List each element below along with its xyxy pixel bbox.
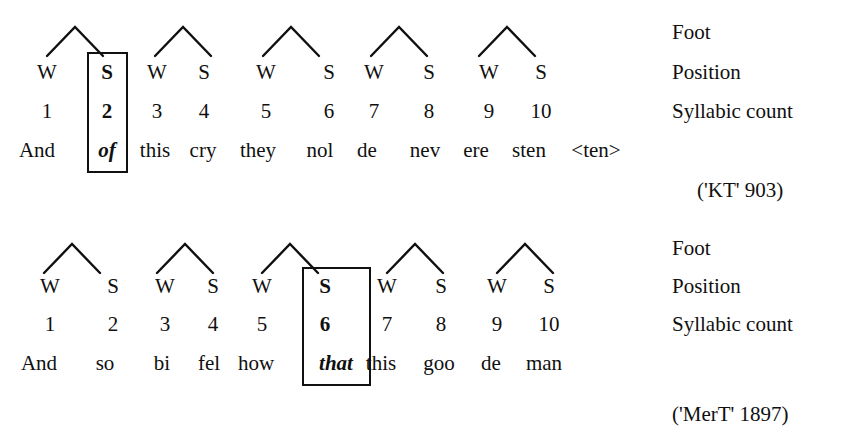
position-cell-6: S bbox=[296, 276, 354, 297]
word-cell-1: And bbox=[8, 140, 66, 161]
foot-caret-1 bbox=[14, 235, 130, 275]
count-cell-2: 2 bbox=[84, 314, 142, 335]
word-cell-4: cry bbox=[174, 140, 232, 161]
caret-icon bbox=[449, 18, 565, 58]
foot-caret-3 bbox=[233, 18, 349, 58]
caret-icon bbox=[14, 235, 130, 275]
word-cell-1: And bbox=[10, 353, 68, 374]
caret-icon bbox=[125, 18, 241, 58]
foot-caret-2 bbox=[127, 235, 243, 275]
legend-label-foot: Foot bbox=[672, 22, 711, 43]
position-cell-7: W bbox=[358, 276, 416, 297]
caret-icon bbox=[341, 18, 457, 58]
foot-caret-5 bbox=[467, 235, 583, 275]
legend-label-position: Position bbox=[672, 62, 741, 83]
position-cell-5: W bbox=[237, 62, 295, 83]
position-cell-10: S bbox=[520, 276, 578, 297]
position-cell-7: W bbox=[345, 62, 403, 83]
count-cell-7: 7 bbox=[345, 101, 403, 122]
legend-label-syllabic-count: Syllabic count bbox=[672, 314, 793, 335]
count-cell-8: 8 bbox=[400, 101, 458, 122]
word-cell-extra: <ten> bbox=[556, 140, 636, 161]
count-cell-5: 5 bbox=[233, 314, 291, 335]
word-cell-5: they bbox=[229, 140, 287, 161]
count-cell-9: 9 bbox=[460, 101, 518, 122]
count-cell-5: 5 bbox=[237, 101, 295, 122]
word-cell-10: sten bbox=[500, 140, 558, 161]
scansion-diagram-1: W S W S W S W S W S 1 2 3 4 5 6 7 8 9 10… bbox=[0, 0, 859, 224]
position-cell-10: S bbox=[512, 62, 570, 83]
count-cell-10: 10 bbox=[512, 101, 570, 122]
word-cell-7: this bbox=[352, 353, 410, 374]
word-cell-8: goo bbox=[410, 353, 468, 374]
count-cell-8: 8 bbox=[412, 314, 470, 335]
legend-label-foot: Foot bbox=[672, 238, 711, 259]
position-cell-8: S bbox=[400, 62, 458, 83]
citation-2: ('MerT' 1897) bbox=[672, 404, 789, 425]
caret-icon bbox=[233, 18, 349, 58]
citation-1: ('KT' 903) bbox=[697, 180, 783, 201]
position-cell-8: S bbox=[412, 276, 470, 297]
position-cell-1: W bbox=[18, 62, 76, 83]
position-cell-1: W bbox=[21, 276, 79, 297]
scansion-diagram-2: W S W S W S W S W S 1 2 3 4 5 6 7 8 9 10… bbox=[0, 224, 859, 448]
position-cell-5: W bbox=[233, 276, 291, 297]
count-cell-4: 4 bbox=[175, 101, 233, 122]
word-cell-9: ere bbox=[447, 140, 505, 161]
word-cell-5: how bbox=[227, 353, 285, 374]
count-cell-1: 1 bbox=[21, 314, 79, 335]
word-cell-9: de bbox=[462, 353, 520, 374]
word-cell-10: man bbox=[515, 353, 573, 374]
caret-icon bbox=[357, 235, 473, 275]
legend-label-position: Position bbox=[672, 276, 741, 297]
count-cell-9: 9 bbox=[468, 314, 526, 335]
count-cell-6: 6 bbox=[296, 314, 354, 335]
caret-icon bbox=[127, 235, 243, 275]
position-cell-9: W bbox=[468, 276, 526, 297]
caret-icon bbox=[467, 235, 583, 275]
position-cell-9: W bbox=[460, 62, 518, 83]
word-cell-8: nev bbox=[396, 140, 454, 161]
word-cell-7: de bbox=[338, 140, 396, 161]
word-cell-2: so bbox=[76, 353, 134, 374]
foot-caret-5 bbox=[449, 18, 565, 58]
count-cell-1: 1 bbox=[18, 101, 76, 122]
position-cell-2: S bbox=[84, 276, 142, 297]
foot-caret-2 bbox=[125, 18, 241, 58]
legend-label-syllabic-count: Syllabic count bbox=[672, 101, 793, 122]
count-cell-7: 7 bbox=[358, 314, 416, 335]
position-cell-4: S bbox=[175, 62, 233, 83]
count-cell-10: 10 bbox=[520, 314, 578, 335]
foot-caret-4 bbox=[341, 18, 457, 58]
foot-caret-4 bbox=[357, 235, 473, 275]
